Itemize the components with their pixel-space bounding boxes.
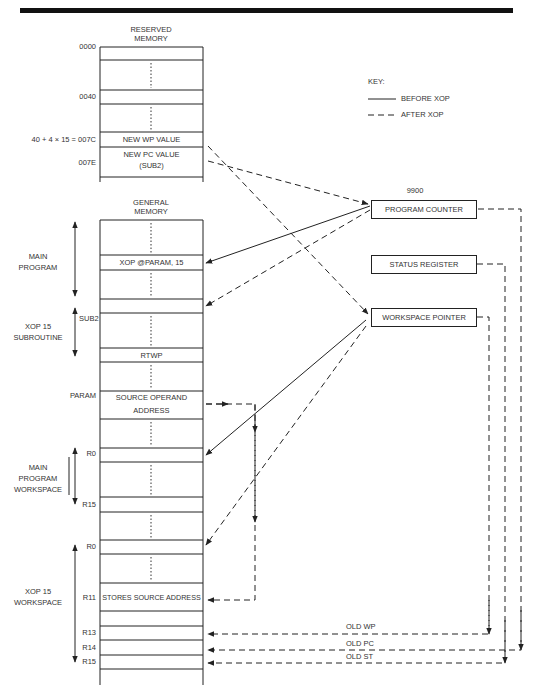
label-r0-xop: R0 bbox=[40, 542, 96, 552]
status-register-box: STATUS REGISTER bbox=[371, 255, 477, 274]
rtwp-cell: RTWP bbox=[100, 349, 203, 362]
key-before: BEFORE XOP bbox=[401, 94, 450, 104]
xop-instruction-cell: XOP @PARAM, 15 bbox=[100, 256, 203, 270]
label-r13: R13 bbox=[40, 628, 96, 638]
region-xop-sub-2: SUBROUTINE bbox=[8, 333, 68, 343]
workspace-pointer-box: WORKSPACE POINTER bbox=[371, 308, 477, 327]
label-sub2: SUB2 bbox=[79, 314, 99, 324]
source-operand-cell-2: ADDRESS bbox=[100, 404, 203, 417]
new-wp-cell: NEW WP VALUE bbox=[100, 133, 203, 147]
addr-0000: 0000 bbox=[40, 42, 96, 52]
label-old-wp: OLD WP bbox=[346, 622, 376, 632]
label-r14: R14 bbox=[40, 643, 96, 653]
region-main-ws-2: PROGRAM bbox=[8, 474, 68, 484]
addr-007E: 007E bbox=[40, 158, 96, 168]
cpu-title: 9900 bbox=[395, 186, 435, 196]
label-r0-main: R0 bbox=[40, 449, 96, 459]
region-main-ws-3: WORKSPACE bbox=[8, 485, 68, 495]
source-operand-cell-1: SOURCE OPERAND bbox=[100, 392, 203, 404]
key-title: KEY: bbox=[368, 77, 385, 87]
new-pc-cell-1: NEW PC VALUE bbox=[100, 148, 203, 160]
label-r15-xop: R15 bbox=[40, 657, 96, 667]
addr-007C: 40 + 4 × 15 = 007C bbox=[0, 135, 96, 145]
region-main-program-1: MAIN bbox=[10, 252, 66, 262]
region-xop-ws-2: WORKSPACE bbox=[8, 598, 68, 608]
label-r15-main: R15 bbox=[40, 500, 96, 510]
label-param: PARAM bbox=[40, 391, 96, 401]
region-xop-sub-1: XOP 15 bbox=[8, 322, 68, 332]
program-counter-box: PROGRAM COUNTER bbox=[371, 200, 477, 219]
general-memory-title-2: MEMORY bbox=[110, 207, 192, 217]
region-main-ws-1: MAIN bbox=[8, 463, 68, 473]
region-xop-ws-1: XOP 15 bbox=[8, 587, 68, 597]
reserved-memory-title-2: MEMORY bbox=[110, 34, 192, 44]
new-pc-cell-2: (SUB2) bbox=[100, 160, 203, 172]
region-main-program-2: PROGRAM bbox=[10, 263, 66, 273]
stores-source-cell: STORES SOURCE ADDRESS bbox=[100, 584, 203, 611]
label-old-st: OLD ST bbox=[346, 652, 373, 662]
label-old-pc: OLD PC bbox=[346, 639, 374, 649]
key-after: AFTER XOP bbox=[401, 110, 444, 120]
addr-0040: 0040 bbox=[40, 92, 96, 102]
